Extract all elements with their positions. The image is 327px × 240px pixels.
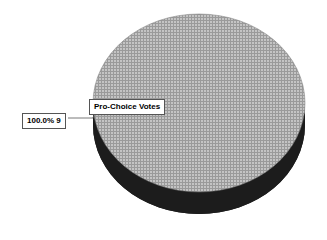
category-label: Pro-Choice Votes [89,99,165,115]
value-label: 100.0% 9 [22,113,66,129]
